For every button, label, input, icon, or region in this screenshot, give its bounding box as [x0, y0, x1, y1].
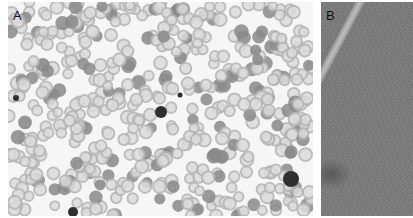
panel-a-label: A — [13, 8, 22, 23]
panel-b-label: B — [326, 8, 335, 23]
blood-smear-cells — [8, 2, 313, 216]
panel-b-tissue-image: B — [321, 2, 413, 216]
panel-a-blood-smear-image: A — [8, 2, 313, 216]
